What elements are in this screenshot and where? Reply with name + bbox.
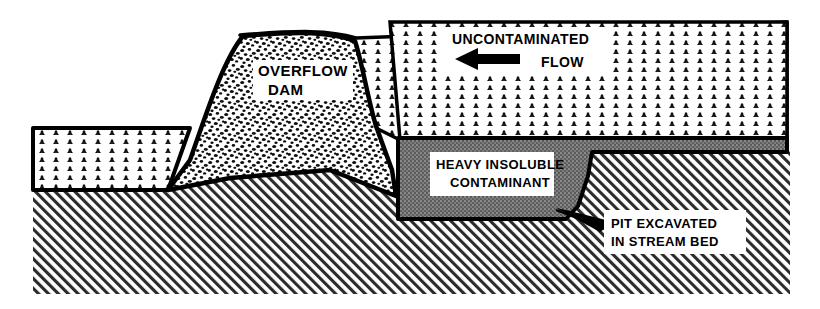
diagram-root: OVERFLOW DAM UNCONTAMINATED FLOW HEAVY I…: [0, 0, 820, 309]
contaminant-label-line1: HEAVY INSOLUBLE: [436, 157, 564, 172]
water-left-channel: [33, 128, 190, 190]
pit-label: PIT EXCAVATED IN STREAM BED: [604, 210, 746, 254]
uncontaminated-flow-label-line2: FLOW: [541, 54, 584, 70]
overflow-dam-fill: [168, 33, 396, 196]
cross-section-canvas: OVERFLOW DAM UNCONTAMINATED FLOW HEAVY I…: [0, 0, 820, 309]
overflow-dam-label-line1: OVERFLOW: [258, 62, 348, 79]
water-left-fill: [33, 128, 190, 190]
pit-label-line1: PIT EXCAVATED: [611, 216, 717, 231]
contaminant-label-line2: CONTAMINANT: [450, 175, 550, 190]
uncontaminated-flow-label-line1: UNCONTAMINATED: [452, 31, 589, 47]
overflow-dam-layer: [168, 33, 396, 196]
uncontaminated-flow-label: UNCONTAMINATED FLOW: [442, 28, 612, 76]
pit-label-line2: IN STREAM BED: [611, 234, 719, 249]
overflow-dam-label: OVERFLOW DAM: [253, 60, 353, 100]
overflow-dam-label-line2: DAM: [268, 81, 303, 98]
contaminant-label: HEAVY INSOLUBLE CONTAMINANT: [430, 152, 564, 196]
